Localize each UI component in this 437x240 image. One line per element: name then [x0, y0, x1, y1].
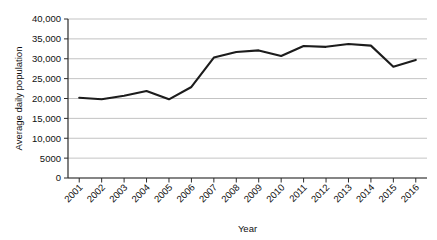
y-tick-label: 30,000 [32, 53, 61, 64]
x-tick-label: 2008 [219, 182, 242, 205]
x-tick-label: 2009 [241, 182, 264, 205]
x-tick-label: 2010 [264, 182, 287, 205]
data-series-line [79, 44, 416, 99]
x-tick-label: 2013 [331, 182, 354, 205]
y-tick-label: 25,000 [32, 73, 61, 84]
x-tick-label: 2002 [84, 182, 107, 205]
y-tick-label: 5000 [40, 153, 61, 164]
x-tick-label: 2005 [152, 182, 175, 205]
y-tick-label: 35,000 [32, 33, 61, 44]
chart-canvas: 0500010,00015,00020,00025,00030,00035,00… [0, 0, 437, 240]
x-tick-label: 2004 [129, 182, 152, 205]
x-tick-label: 2012 [309, 182, 332, 205]
y-axis-title: Average daily population [13, 47, 24, 151]
y-tick-label: 0 [56, 172, 61, 183]
y-tick-label: 15,000 [32, 113, 61, 124]
x-tick-label: 2015 [376, 182, 399, 205]
x-tick-label: 2001 [62, 182, 85, 205]
y-tick-label: 40,000 [32, 13, 61, 24]
x-tick-label: 2014 [354, 182, 377, 205]
x-tick-label: 2016 [398, 182, 421, 205]
x-tick-label: 2003 [107, 182, 130, 205]
y-tick-label: 20,000 [32, 93, 61, 104]
line-chart: 0500010,00015,00020,00025,00030,00035,00… [0, 0, 437, 240]
x-axis-title: Year [238, 223, 257, 234]
x-tick-label: 2011 [287, 182, 309, 204]
x-tick-label: 2007 [197, 182, 220, 205]
y-tick-label: 10,000 [32, 133, 61, 144]
x-tick-label: 2006 [174, 182, 197, 205]
